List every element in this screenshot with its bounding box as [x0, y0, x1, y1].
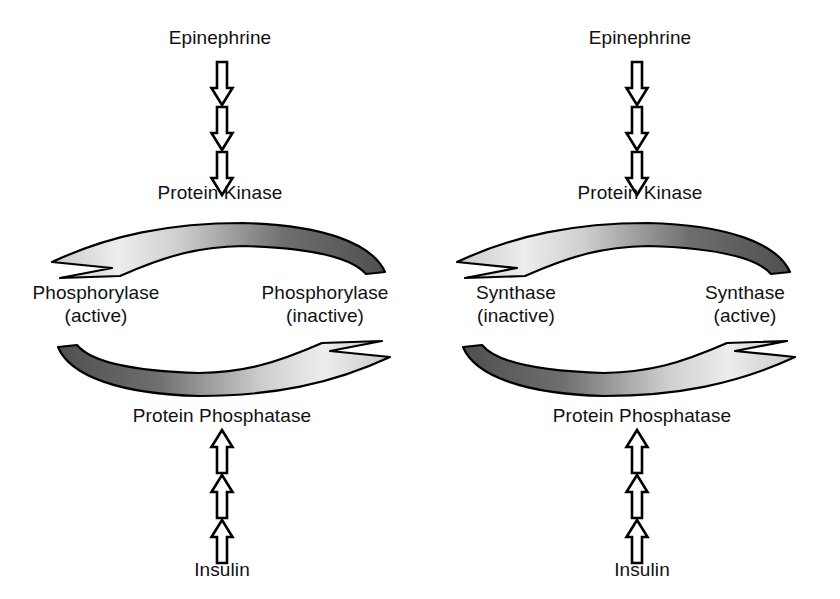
label-protein-kinase: Protein Kinase	[525, 181, 755, 204]
label-left-node: Phosphorylase (active)	[0, 281, 196, 327]
label-right-node: Synthase (active)	[642, 281, 840, 327]
up-arrow-3	[627, 520, 648, 563]
down-arrow-1	[627, 62, 648, 105]
up-arrow-1	[627, 430, 648, 473]
up-arrow-2	[212, 475, 233, 518]
down-arrow-2	[627, 107, 648, 150]
up-arrow-3	[212, 520, 233, 563]
down-arrow-2	[212, 107, 233, 150]
panel-synthase-cycle: Epinephrine	[420, 0, 840, 599]
panel-phosphorylase-cycle: Epinephrine	[0, 0, 420, 599]
label-protein-kinase: Protein Kinase	[105, 181, 335, 204]
curved-arrow-top	[457, 223, 790, 278]
label-epinephrine: Epinephrine	[110, 26, 330, 49]
label-epinephrine: Epinephrine	[530, 26, 750, 49]
label-protein-phosphatase: Protein Phosphatase	[517, 404, 767, 427]
label-protein-phosphatase: Protein Phosphatase	[97, 404, 347, 427]
label-insulin: Insulin	[542, 558, 742, 581]
label-right-node: Phosphorylase (inactive)	[222, 281, 428, 327]
curved-arrow-bottom	[58, 341, 390, 396]
label-left-node: Synthase (inactive)	[416, 281, 616, 327]
curved-arrow-top	[52, 223, 385, 278]
signaling-diagram: Epinephrine	[0, 0, 840, 599]
curved-arrow-bottom	[463, 341, 795, 396]
down-arrow-1	[212, 62, 233, 105]
label-insulin: Insulin	[122, 558, 322, 581]
up-arrow-2	[627, 475, 648, 518]
up-arrow-1	[212, 430, 233, 473]
